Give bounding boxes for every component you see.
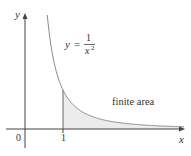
area-label: finite area [112,96,155,107]
tick-label-1: 1 [61,132,66,143]
origin-label: 0 [16,132,21,143]
function-label: y = 1 x 2 [64,32,95,56]
graph: y x 0 1 y = 1 x 2 finite area [0,0,191,156]
function-lhs: y [64,38,70,50]
function-numerator: 1 [86,32,91,43]
x-axis-label: x [178,133,184,145]
y-axis-label: y [14,8,20,20]
y-axis-arrow-icon [23,13,28,19]
function-eq: = [74,38,80,50]
function-exponent: 2 [91,44,95,52]
function-denominator: x [84,45,90,56]
